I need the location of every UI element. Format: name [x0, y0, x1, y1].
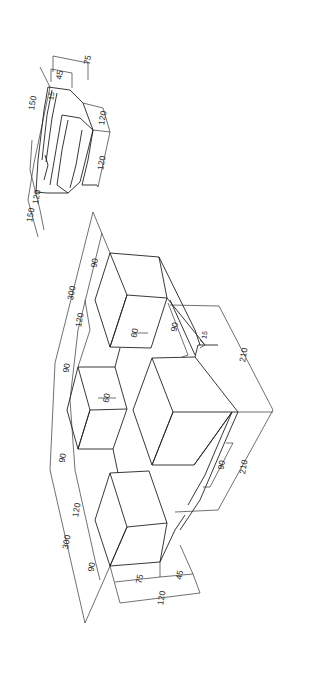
dim-label-120-b: 120: [70, 502, 82, 518]
dim-label-120-c: 120: [155, 590, 167, 606]
main-figure: 300 90 120 90 60 60 90 15 210 210 90 90 …: [50, 212, 273, 623]
dim-label-210-top: 210: [237, 347, 249, 363]
dim-label-120-a: 120: [73, 312, 85, 328]
dim-label-45: 45: [54, 69, 66, 80]
dim-label-90-f: 90: [86, 561, 98, 572]
dim-label-90-a: 90: [89, 257, 101, 268]
dim-label-15: 15: [47, 91, 55, 100]
dim-label-150-top: 150: [26, 95, 38, 111]
dim-label-60-a: 60: [129, 327, 141, 338]
isometric-drawing: 75 45 15 150 120 120 120 150: [0, 0, 314, 690]
dim-label-90-c: 90: [169, 321, 181, 332]
dim-label-120-left: 120: [30, 189, 42, 205]
dim-label-210-bottom: 210: [237, 459, 249, 475]
dim-label-45: 45: [174, 569, 186, 580]
dim-label-120-right-bottom: 120: [95, 155, 107, 171]
dim-label-75: 75: [134, 573, 146, 584]
dim-label-90-e: 90: [57, 452, 69, 463]
dim-label-300-bottom: 300: [60, 534, 72, 550]
dim-label-300-top: 300: [65, 285, 77, 301]
dim-label-150-bottom: 150: [24, 207, 36, 223]
dim-label-90-d: 90: [216, 459, 228, 470]
dim-label-120-right-top: 120: [96, 110, 108, 126]
dim-label-60-b: 60: [101, 392, 113, 403]
dim-label-75: 75: [82, 54, 94, 65]
small-figure: 75 45 15 150 120 120 120 150: [24, 54, 110, 237]
dim-label-15: 15: [200, 330, 208, 339]
dim-label-90-b: 90: [61, 362, 73, 373]
